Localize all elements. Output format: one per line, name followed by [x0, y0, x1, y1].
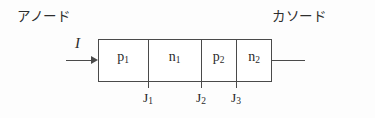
- layer-label-n1: n1: [148, 50, 201, 66]
- current-symbol-label: I: [75, 36, 80, 51]
- anode-label: アノード: [17, 10, 70, 24]
- layer-sub-n2: 2: [255, 55, 260, 65]
- junction-sub-j2: 2: [201, 96, 206, 106]
- layer-sub-n1: 1: [176, 55, 181, 65]
- junction-label-j3: J3: [223, 91, 249, 107]
- junction-tick-j2: [201, 82, 202, 88]
- layer-sub-p1: 1: [124, 55, 129, 65]
- junction-sub-j1: 1: [148, 96, 153, 106]
- junction-tick-j1: [148, 82, 149, 88]
- junction-label-j2: J2: [188, 91, 214, 107]
- pnpn-device-diagram: アノード カソード I p1 n1 p2 n2 J1 J2 J3: [0, 0, 375, 118]
- layer-label-p1: p1: [98, 50, 148, 66]
- cathode-label: カソード: [272, 10, 326, 24]
- cathode-lead-wire: [272, 60, 305, 61]
- layer-base-p2: p: [213, 49, 220, 64]
- junction-label-j1: J1: [135, 91, 161, 107]
- junction-sub-j3: 3: [236, 96, 241, 106]
- layer-sub-p2: 2: [220, 55, 225, 65]
- layer-label-n2: n2: [236, 50, 272, 66]
- junction-tick-j3: [236, 82, 237, 88]
- current-arrow-icon: [91, 56, 98, 64]
- layer-label-p2: p2: [201, 50, 236, 66]
- anode-lead-wire: [66, 60, 93, 61]
- layer-base-n1: n: [169, 49, 176, 64]
